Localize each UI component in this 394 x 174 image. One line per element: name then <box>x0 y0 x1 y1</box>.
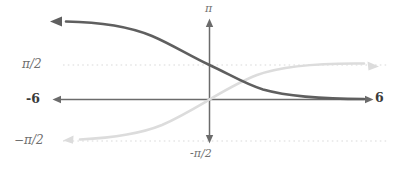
label-y-axis-bottom: -π/2 <box>190 148 212 159</box>
label-x-min: -6 <box>26 93 40 106</box>
y-axis-bottom-arrowhead <box>206 135 213 144</box>
curve-arccot <box>66 22 364 100</box>
arctan-left-arrowhead <box>63 136 74 144</box>
label-x-max: 6 <box>375 92 384 105</box>
y-axis-top-arrowhead <box>206 19 213 28</box>
label-pi-half: π/2 <box>22 58 42 70</box>
x-axis-right-arrowhead <box>365 96 374 103</box>
curve-arctan <box>80 63 364 139</box>
x-axis-left-arrowhead <box>53 96 62 103</box>
figure-canvas: π/2 −π/2 -6 6 π -π/2 <box>0 0 394 174</box>
label-y-axis-top-pi: π <box>205 3 212 14</box>
arccot-left-arrowhead <box>50 17 62 27</box>
label-negative-pi-half: −π/2 <box>14 134 44 146</box>
arctan-right-arrowhead <box>368 62 380 71</box>
